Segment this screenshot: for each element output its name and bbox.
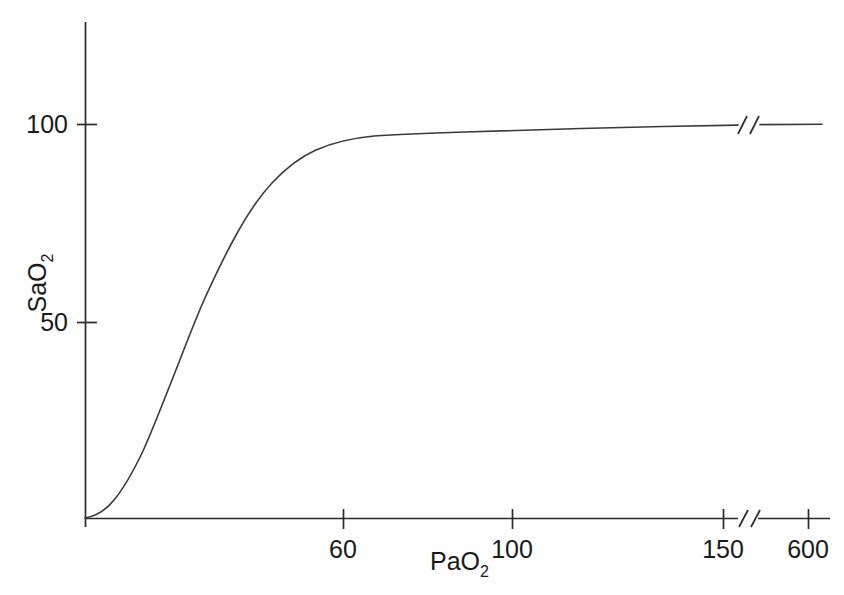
svg-text:SaO2: SaO2 [23, 253, 56, 312]
x-tick-label-600: 600 [787, 535, 829, 563]
chart-figure: 100 50 60 100 150 600 SaO2 PaO2 [0, 0, 844, 595]
x-tick-label-60: 60 [329, 535, 357, 563]
curve-break-icon [738, 116, 759, 134]
x-axis-title-main: PaO [430, 547, 480, 575]
y-axis-title: SaO2 [23, 253, 56, 312]
x-tick-label-150: 150 [702, 535, 744, 563]
plot-area: 100 50 60 100 150 600 SaO2 PaO2 [0, 0, 844, 595]
y-axis-title-main: SaO [23, 262, 51, 312]
svg-text:PaO2: PaO2 [430, 547, 489, 580]
y-tick-label-100: 100 [26, 110, 68, 138]
x-tick-label-100: 100 [491, 535, 533, 563]
x-axis-break-icon [739, 510, 760, 527]
x-axis-title-subscript: 2 [480, 563, 489, 580]
x-axis-title: PaO2 [430, 547, 489, 580]
dissociation-curve-left [85, 125, 738, 518]
y-axis-title-subscript: 2 [39, 253, 56, 262]
